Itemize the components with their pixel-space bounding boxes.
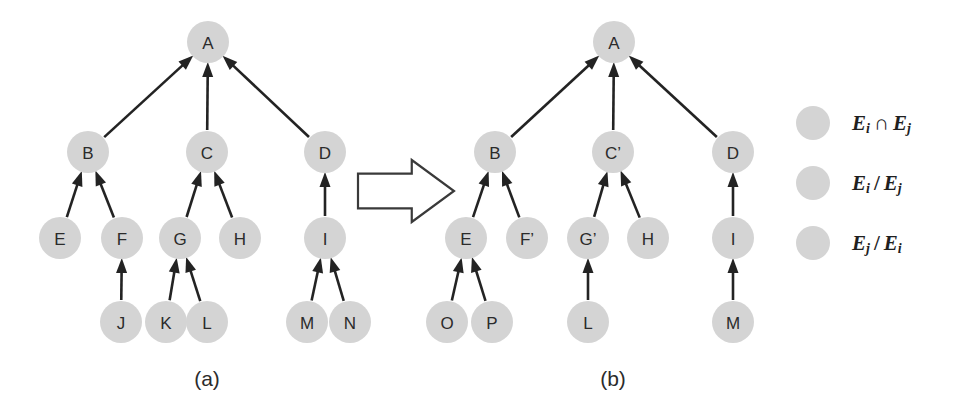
- node-label: B: [82, 144, 93, 163]
- legend-swatch: [796, 106, 830, 140]
- legend-label: Ei∩Ej: [851, 111, 911, 136]
- node-label: D: [319, 144, 331, 163]
- node-label: A: [608, 34, 620, 53]
- tree-node-cprime[interactable]: C’: [592, 131, 634, 173]
- node-label: E: [54, 230, 65, 249]
- node-label: O: [440, 314, 453, 333]
- tree-node-m[interactable]: M: [712, 301, 754, 343]
- tree-node-k[interactable]: K: [145, 301, 187, 343]
- node-label: N: [344, 314, 356, 333]
- tree-node-b[interactable]: B: [67, 131, 109, 173]
- node-label: K: [160, 314, 172, 333]
- node-label: G: [173, 230, 186, 249]
- node-label: B: [489, 144, 500, 163]
- node-label: J: [117, 314, 126, 333]
- tree-node-a[interactable]: A: [593, 21, 635, 63]
- tree-node-l[interactable]: L: [567, 301, 609, 343]
- legend-swatch: [796, 166, 830, 200]
- node-label: M: [300, 314, 314, 333]
- node-label: M: [726, 314, 740, 333]
- node-label: H: [642, 230, 654, 249]
- legend-label: Ej/Ei: [851, 231, 902, 256]
- tree-node-n[interactable]: N: [329, 301, 371, 343]
- tree-node-l[interactable]: L: [186, 301, 228, 343]
- tree-node-f[interactable]: F: [101, 217, 143, 259]
- node-label: E: [460, 230, 471, 249]
- tree-node-a[interactable]: A: [187, 21, 229, 63]
- legend: Ei∩EjEi/EjEj/Ei: [796, 106, 911, 260]
- figure-background: [0, 0, 958, 414]
- node-label: I: [731, 230, 736, 249]
- node-label: G’: [580, 230, 597, 249]
- node-label: H: [234, 230, 246, 249]
- tree-node-e[interactable]: E: [39, 217, 81, 259]
- legend-item-intersection: Ei∩Ej: [796, 106, 911, 140]
- node-label: C: [201, 144, 213, 163]
- tree-node-d[interactable]: D: [304, 131, 346, 173]
- tree-node-i[interactable]: I: [712, 217, 754, 259]
- tree-node-j[interactable]: J: [100, 301, 142, 343]
- tree-node-m[interactable]: M: [286, 301, 328, 343]
- node-label: F’: [520, 230, 534, 249]
- tree-node-h[interactable]: H: [219, 217, 261, 259]
- legend-swatch: [796, 226, 830, 260]
- tree-node-d[interactable]: D: [712, 131, 754, 173]
- panel-caption-a: (a): [194, 367, 220, 390]
- tree-node-b[interactable]: B: [474, 131, 516, 173]
- tree-node-g[interactable]: G: [159, 217, 201, 259]
- tree-node-e[interactable]: E: [445, 217, 487, 259]
- tree-node-c[interactable]: C: [186, 131, 228, 173]
- node-label: L: [202, 314, 211, 333]
- node-label: I: [323, 230, 328, 249]
- tree-node-gprime[interactable]: G’: [567, 217, 609, 259]
- node-label: P: [486, 314, 497, 333]
- panel-caption-b: (b): [600, 367, 626, 390]
- node-label: F: [117, 230, 127, 249]
- node-label: A: [202, 34, 214, 53]
- node-label: C’: [605, 144, 621, 163]
- tree-node-i[interactable]: I: [304, 217, 346, 259]
- node-label: D: [727, 144, 739, 163]
- legend-label: Ei/Ej: [851, 171, 902, 196]
- dependency-tree-transformation-figure: ABCDEFGHIJKLMN ABC’DEF’G’HIOPLM (a) (b) …: [0, 0, 958, 414]
- tree-node-o[interactable]: O: [426, 301, 468, 343]
- tree-node-p[interactable]: P: [471, 301, 513, 343]
- tree-node-fprime[interactable]: F’: [506, 217, 548, 259]
- node-label: L: [583, 314, 592, 333]
- tree-node-h[interactable]: H: [627, 217, 669, 259]
